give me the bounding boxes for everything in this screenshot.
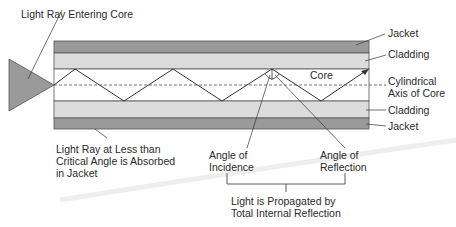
cladding-bottom bbox=[54, 101, 369, 118]
label-angle-reflection: Angle of Reflection bbox=[320, 149, 367, 173]
label-core: Core bbox=[310, 69, 333, 81]
light-source-icon bbox=[9, 59, 54, 111]
cladding-top bbox=[54, 53, 369, 69]
label-angle-incidence: Angle of Incidence bbox=[209, 149, 254, 173]
jacket-top bbox=[54, 41, 369, 53]
label-axis: Cylindrical Axis of Core bbox=[388, 75, 445, 99]
label-absorbed: Light Ray at Less than Critical Angle is… bbox=[56, 143, 175, 179]
bracket bbox=[227, 173, 345, 184]
leader-jacket-top bbox=[356, 34, 385, 45]
label-jacket-top: Jacket bbox=[388, 27, 418, 39]
label-propagation: Light is Propagated by Total Internal Re… bbox=[231, 195, 341, 219]
label-jacket-bottom: Jacket bbox=[388, 120, 418, 132]
label-cladding-top: Cladding bbox=[388, 48, 429, 60]
label-light-entering: Light Ray Entering Core bbox=[21, 8, 133, 20]
label-cladding-bottom: Cladding bbox=[388, 104, 429, 116]
leader-absorbed bbox=[95, 129, 107, 138]
